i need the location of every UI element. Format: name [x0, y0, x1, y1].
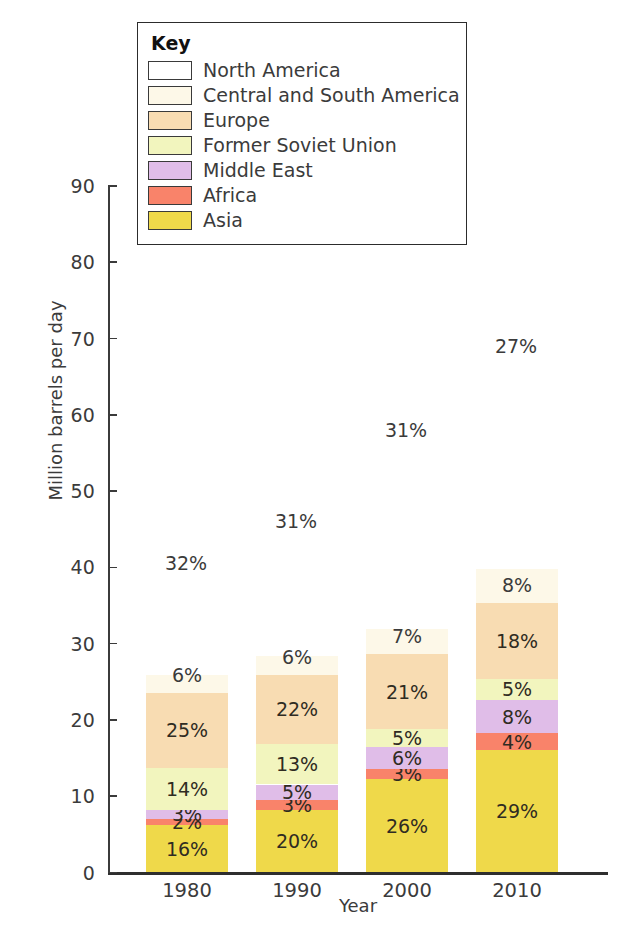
legend-item-label: Former Soviet Union — [203, 136, 397, 155]
bar-segment-asia — [476, 750, 558, 872]
y-axis-tick — [108, 414, 117, 416]
y-axis-tick-label: 20 — [0, 709, 95, 731]
x-axis-tick-label-1990: 1990 — [242, 879, 352, 902]
legend-swatch-icon — [148, 111, 192, 130]
bar-segment-europe — [256, 675, 338, 744]
bar-segment-europe — [476, 603, 558, 679]
legend-item-label: Central and South America — [203, 86, 460, 105]
bar-1980: 16%2%3%14%25% — [146, 579, 228, 873]
y-axis-tick-label: 0 — [0, 862, 95, 884]
north-america-value-label: 32% — [126, 552, 246, 574]
y-axis-tick — [108, 338, 117, 340]
legend-item: Africa — [148, 183, 456, 208]
bar-segment-former-soviet-union — [366, 729, 448, 747]
bar-segment-africa — [146, 819, 228, 825]
north-america-value-label: 27% — [456, 335, 576, 357]
bar-segment-asia — [366, 779, 448, 872]
legend-item: Former Soviet Union — [148, 133, 456, 158]
x-axis-tick-label-2010: 2010 — [462, 879, 572, 902]
bar-segment-north-america — [146, 579, 228, 675]
y-axis-tick-label: 90 — [0, 175, 95, 197]
bar-segment-middle-east — [146, 810, 228, 819]
stacked-bar-chart: 0102030405060708090 Million barrels per … — [0, 0, 622, 925]
bar-segment-asia — [146, 825, 228, 873]
bar-segment-middle-east — [256, 785, 338, 801]
legend-swatch-icon — [148, 61, 192, 80]
legend-swatch-icon — [148, 161, 192, 180]
x-axis-tick-label-1980: 1980 — [132, 879, 242, 902]
bar-segment-europe — [146, 693, 228, 768]
legend-box: Key North AmericaCentral and South Ameri… — [137, 22, 467, 245]
bar-2010: 29%4%8%5%18% — [476, 455, 558, 872]
y-axis-tick — [108, 185, 117, 187]
north-america-value-label: 31% — [346, 419, 466, 441]
north-america-value-label: 31% — [236, 510, 356, 532]
y-axis-title: Million barrels per day — [45, 251, 66, 551]
central-south-america-value-label: 6% — [127, 664, 247, 686]
legend-item-label: Europe — [203, 111, 270, 130]
y-axis-tick — [108, 261, 117, 263]
y-axis-tick — [108, 490, 117, 492]
bar-segment-middle-east — [476, 700, 558, 734]
legend-item: Middle East — [148, 158, 456, 183]
central-south-america-value-label: 7% — [347, 625, 467, 647]
bar-segment-africa — [476, 733, 558, 750]
bar-segment-former-soviet-union — [256, 744, 338, 785]
legend-swatch-icon — [148, 186, 192, 205]
y-axis-tick-label: 30 — [0, 633, 95, 655]
bar-segment-former-soviet-union — [146, 768, 228, 810]
legend-item: North America — [148, 58, 456, 83]
y-axis-tick-label: 40 — [0, 556, 95, 578]
x-axis-tick-label-2000: 2000 — [352, 879, 462, 902]
bar-segment-north-america — [476, 455, 558, 569]
bar-segment-asia — [256, 810, 338, 873]
y-axis-tick — [108, 567, 117, 569]
y-axis-tick — [108, 795, 117, 797]
bar-1990: 20%3%5%13%22% — [256, 558, 338, 872]
y-axis-tick — [108, 872, 117, 874]
bar-segment-middle-east — [366, 747, 448, 768]
legend-item-label: North America — [203, 61, 341, 80]
central-south-america-value-label: 8% — [457, 574, 577, 596]
bar-segment-former-soviet-union — [476, 679, 558, 700]
y-axis-tick — [108, 643, 117, 645]
legend-item: Europe — [148, 108, 456, 133]
bar-2000: 26%3%6%5%21% — [366, 518, 448, 873]
legend-item-label: Asia — [203, 211, 243, 230]
legend-item-label: Middle East — [203, 161, 313, 180]
legend-items: North AmericaCentral and South AmericaEu… — [148, 58, 456, 233]
bar-segment-africa — [256, 800, 338, 809]
legend-item: Central and South America — [148, 83, 456, 108]
y-axis-line — [108, 186, 110, 874]
bar-segment-africa — [366, 769, 448, 780]
legend-swatch-icon — [148, 86, 192, 105]
y-axis-tick — [108, 719, 117, 721]
legend-item: Asia — [148, 208, 456, 233]
y-axis-tick-label: 10 — [0, 785, 95, 807]
legend-item-label: Africa — [203, 186, 257, 205]
legend-swatch-icon — [148, 211, 192, 230]
bar-segment-europe — [366, 654, 448, 729]
central-south-america-value-label: 6% — [237, 646, 357, 668]
legend-title: Key — [151, 32, 456, 54]
bar-segment-north-america — [256, 558, 338, 655]
legend-swatch-icon — [148, 136, 192, 155]
bar-segment-north-america — [366, 518, 448, 629]
